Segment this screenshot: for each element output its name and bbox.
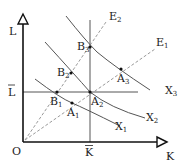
point-b2 xyxy=(69,71,72,74)
point-a3-label: A3 xyxy=(116,72,129,86)
point-b1 xyxy=(55,90,58,93)
point-b2-label: B2 xyxy=(57,66,70,80)
isoquant-x3-label: X3 xyxy=(165,84,177,98)
point-a2 xyxy=(88,90,91,93)
ray-e1-label: E1 xyxy=(156,36,169,50)
x-axis-label: K xyxy=(166,150,175,162)
y-axis-label: L xyxy=(9,25,17,38)
origin-label: O xyxy=(12,145,21,158)
diagram-canvas: L K O L K E2 E1 X1 X2 X3 A1 A2 A3 B1 B2 … xyxy=(0,0,185,162)
isoquant-x1-label: X1 xyxy=(115,120,127,134)
point-a2-label: A2 xyxy=(90,95,103,109)
l-bar-label: L xyxy=(8,86,16,99)
isoquant-x2-label: X2 xyxy=(146,111,158,125)
point-a3 xyxy=(119,67,122,70)
k-bar-label: K xyxy=(85,146,94,159)
ray-e2-label: E2 xyxy=(109,10,122,24)
x-axis-arrow-icon xyxy=(157,137,167,147)
y-axis-arrow-icon xyxy=(18,14,28,24)
point-a1-label: A1 xyxy=(66,106,79,120)
point-a1 xyxy=(70,101,73,104)
